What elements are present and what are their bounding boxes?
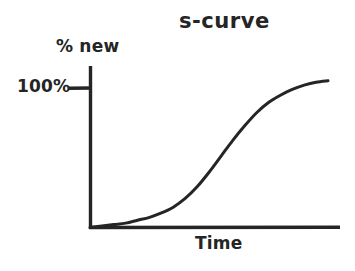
x-axis-label: Time — [195, 235, 242, 252]
chart-title: s-curve — [179, 10, 270, 32]
plot-area — [0, 0, 355, 271]
figure-background — [0, 0, 355, 271]
y-axis-tick-label-100: 100% — [17, 78, 70, 95]
y-axis-label: % new — [56, 38, 119, 55]
s-curve-figure: s-curve % new 100% Time — [0, 0, 355, 271]
